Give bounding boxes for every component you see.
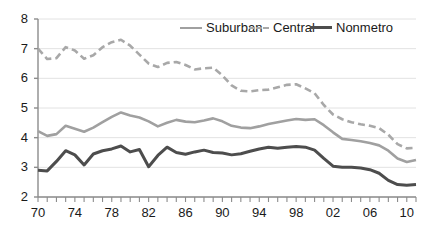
x-tick-label: 86 <box>172 206 200 219</box>
chart-canvas <box>0 0 428 235</box>
legend-swatch-suburban <box>180 27 202 29</box>
legend-label-nonmetro: Nonmetro <box>336 20 393 35</box>
y-tick-label: 2 <box>6 190 28 203</box>
x-tick-label: 90 <box>208 206 236 219</box>
gridlines <box>38 19 416 197</box>
series-line-nonmetro <box>38 146 416 185</box>
y-tick-label: 4 <box>6 131 28 144</box>
y-tick-label: 8 <box>6 12 28 25</box>
x-tick-label: 82 <box>135 206 163 219</box>
legend-item-central: Central <box>249 20 315 35</box>
y-tick-label: 6 <box>6 71 28 84</box>
x-tick-label: 10 <box>393 206 421 219</box>
y-tick-label: 3 <box>6 160 28 173</box>
x-tick-label: 02 <box>319 206 347 219</box>
x-axis-ticks <box>38 197 416 202</box>
line-chart: 2345678 7074788286909498020610 Suburban … <box>0 0 428 235</box>
series-line-central <box>38 40 416 149</box>
data-series-group <box>38 40 416 185</box>
legend-label-central: Central <box>273 20 315 35</box>
x-tick-label: 06 <box>356 206 384 219</box>
x-tick-label: 94 <box>245 206 273 219</box>
x-tick-label: 98 <box>282 206 310 219</box>
x-tick-label: 70 <box>24 206 52 219</box>
y-tick-label: 5 <box>6 101 28 114</box>
y-tick-label: 7 <box>6 42 28 55</box>
legend-swatch-central <box>249 27 269 29</box>
x-tick-label: 78 <box>98 206 126 219</box>
x-tick-label: 74 <box>61 206 89 219</box>
legend-swatch-nonmetro <box>310 26 332 29</box>
legend-item-nonmetro: Nonmetro <box>310 20 393 35</box>
